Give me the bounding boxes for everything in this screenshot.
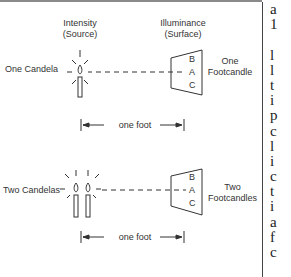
text-fragment: c bbox=[270, 124, 291, 139]
text-fragment: l bbox=[270, 48, 291, 63]
text-fragment: i bbox=[270, 199, 291, 214]
text-fragment: i bbox=[270, 93, 291, 108]
text-fragment: l bbox=[270, 63, 291, 78]
text-fragment bbox=[270, 32, 291, 47]
single-candle-icon bbox=[67, 50, 92, 97]
text-fragment: c bbox=[270, 245, 291, 260]
bottom-surface-shape bbox=[171, 169, 202, 215]
text-fragment: 1 bbox=[270, 17, 291, 32]
illuminance-diagram bbox=[0, 0, 291, 277]
text-fragment: p bbox=[270, 108, 291, 123]
text-fragment: f bbox=[270, 230, 291, 245]
text-fragment: a bbox=[270, 215, 291, 230]
text-fragment: l bbox=[270, 139, 291, 154]
text-fragment: c bbox=[270, 169, 291, 184]
text-fragment: i bbox=[270, 154, 291, 169]
double-candle-icon bbox=[60, 170, 101, 217]
top-surface-shape bbox=[171, 50, 202, 95]
text-fragment: t bbox=[270, 78, 291, 93]
text-fragment: t bbox=[270, 184, 291, 199]
text-fragment: a bbox=[270, 2, 291, 17]
body-text-column-clipped: a 1 l l t i p c l i c t i a f c bbox=[270, 2, 291, 260]
